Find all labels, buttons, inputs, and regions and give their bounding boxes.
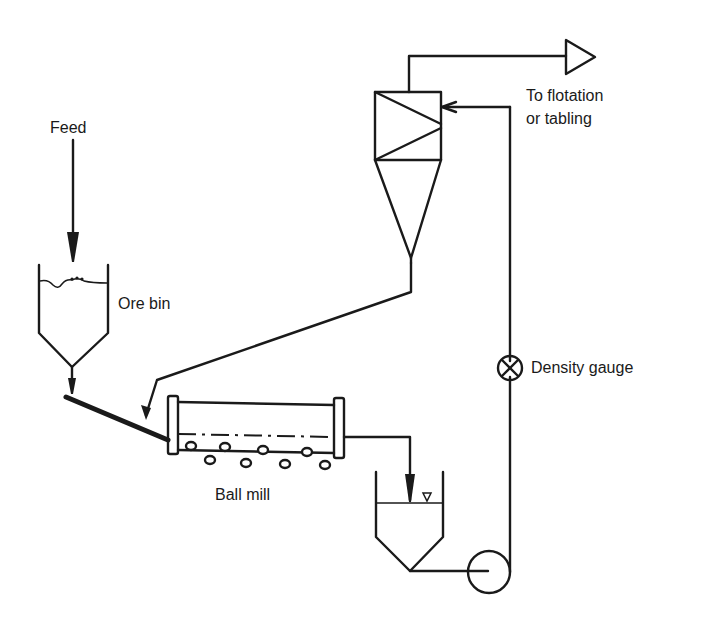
hydrocyclone: [375, 92, 441, 263]
ore-particle: [80, 277, 83, 280]
density-gauge-label: Density gauge: [531, 359, 633, 376]
underflow-pipe: [146, 263, 411, 415]
ore-bin-body: [39, 265, 108, 367]
ball-mill: Ball mill: [168, 396, 344, 503]
feed-label: Feed: [50, 119, 86, 136]
output-label-line2: or tabling: [526, 110, 592, 127]
output-label-line1: To flotation: [526, 87, 603, 104]
ore-bin-label: Ore bin: [118, 295, 170, 312]
cyclone-cone: [375, 160, 441, 258]
ball-mill-label: Ball mill: [215, 486, 270, 503]
discharge-arrowhead-icon: [405, 474, 415, 502]
output-arrow-icon: [566, 40, 595, 74]
grinding-ball: [320, 461, 330, 469]
feed-input: Feed: [50, 119, 86, 262]
cyclone-feed-line: [442, 102, 510, 572]
cyclone-chamber-line: [375, 92, 441, 124]
ore-particle: [70, 277, 73, 280]
grinding-ball: [220, 443, 230, 451]
cyclone-underflow-line: [141, 263, 411, 420]
feed-arrowhead-icon: [67, 232, 79, 262]
cyclone-feed-chamber: [375, 92, 441, 160]
grinding-ball: [258, 446, 268, 454]
ball-mill-right-end: [334, 398, 344, 458]
grinding-ball: [302, 448, 312, 456]
ore-bin: Ore bin: [39, 265, 170, 394]
ore-bin-arrowhead-icon: [68, 378, 76, 394]
ore-bin-ore-surface: [40, 279, 107, 288]
ball-mill-slurry-level: [178, 434, 334, 437]
water-level-symbol-icon: [423, 493, 431, 501]
cyclone-chamber-line: [375, 128, 441, 160]
grinding-ball: [186, 442, 196, 450]
feeder-chute: [66, 397, 168, 440]
mill-discharge-line: [344, 437, 415, 502]
ball-mill-left-end: [168, 396, 178, 454]
pump: [410, 551, 510, 593]
grinding-ball: [280, 460, 290, 468]
grinding-circuit-diagram: Feed Ore bin Ball mill: [0, 0, 703, 629]
ore-particle: [75, 276, 78, 279]
grinding-ball: [241, 459, 251, 467]
grinding-ball: [205, 456, 215, 464]
density-gauge: Density gauge: [498, 356, 633, 380]
cyclone-overflow-line: To flotation or tabling: [409, 40, 603, 127]
ball-mill-top-shell: [178, 402, 334, 405]
